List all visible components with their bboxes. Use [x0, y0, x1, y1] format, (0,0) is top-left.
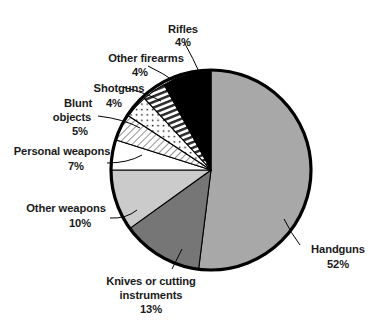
label-blunt-objects-line2: objects [53, 111, 91, 123]
label-shotguns-value: 4% [106, 97, 122, 109]
label-other-firearms-name: Other firearms [108, 52, 184, 64]
label-blunt-objects-value: 5% [72, 125, 88, 137]
callout-label-other-weapons: Other weapons 10% [26, 202, 106, 229]
label-knives-line2: instruments [120, 289, 183, 301]
label-knives-value: 13% [140, 303, 162, 315]
leader-line-other-firearms [148, 66, 177, 83]
label-blunt-objects-line1: Blunt [64, 97, 92, 109]
label-other-firearms-value: 4% [132, 66, 148, 78]
pie-chart-canvas: Rifles 4% Other firearms 4% Shotguns 4% … [0, 0, 379, 326]
label-personal-weapons-value: 7% [68, 160, 84, 172]
label-handguns-value: 52% [327, 258, 349, 270]
label-other-weapons-value: 10% [69, 217, 91, 229]
label-rifles-value: 4% [175, 36, 191, 48]
callout-label-other-firearms: Other firearms 4% [108, 52, 184, 78]
label-rifles-name: Rifles [168, 23, 198, 35]
label-other-weapons-name: Other weapons [26, 202, 106, 214]
callout-label-rifles: Rifles 4% [168, 23, 198, 48]
label-handguns-name: Handguns [311, 243, 365, 255]
label-knives-line1: Knives or cutting [106, 275, 196, 287]
label-personal-weapons-name: Personal weapons [14, 145, 111, 157]
callout-label-personal-weapons: Personal weapons 7% [14, 145, 111, 172]
callout-label-knives: Knives or cutting instruments 13% [106, 275, 196, 315]
pie-chart-figure: Rifles 4% Other firearms 4% Shotguns 4% … [0, 0, 379, 326]
callout-label-blunt-objects: Blunt objects 5% [53, 97, 93, 137]
label-shotguns-name: Shotguns [94, 82, 145, 94]
callout-label-handguns: Handguns 52% [311, 243, 365, 270]
pie-slice-handguns[interactable] [199, 70, 312, 270]
